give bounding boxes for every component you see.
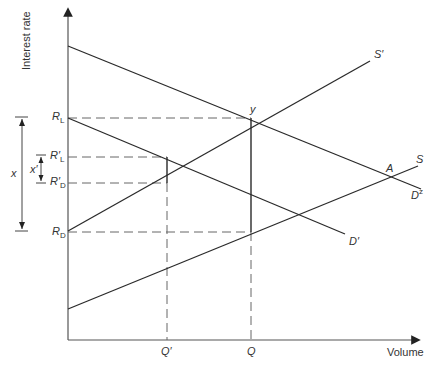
- label-r-prime-d: R′D: [50, 175, 66, 190]
- curve-s: [68, 166, 418, 309]
- label-s: S: [416, 153, 423, 165]
- label-r-prime-l: R′L: [50, 149, 64, 164]
- label-d-prime: D′: [349, 235, 359, 247]
- label-r-d: RD: [52, 225, 66, 240]
- curve-s-prime: [68, 61, 370, 231]
- label-q-prime: Q′: [161, 345, 172, 357]
- label-point-y: y: [250, 103, 256, 115]
- curve-d-z: [68, 46, 421, 189]
- label-x-prime: x′: [30, 163, 38, 175]
- dashed-guides: [68, 118, 251, 340]
- label-r-l: RL: [52, 110, 64, 125]
- axes: [68, 12, 416, 340]
- label-q: Q: [247, 345, 256, 357]
- label-d-z: Dz: [411, 187, 423, 201]
- label-point-a: A: [386, 162, 393, 174]
- label-s-prime: S′: [374, 48, 383, 60]
- x-axis-label: Volume: [387, 346, 424, 358]
- curves: [68, 46, 421, 309]
- y-axis-label: Interest rate: [20, 11, 32, 70]
- curve-d-prime: [68, 118, 345, 234]
- label-x: x: [11, 167, 17, 179]
